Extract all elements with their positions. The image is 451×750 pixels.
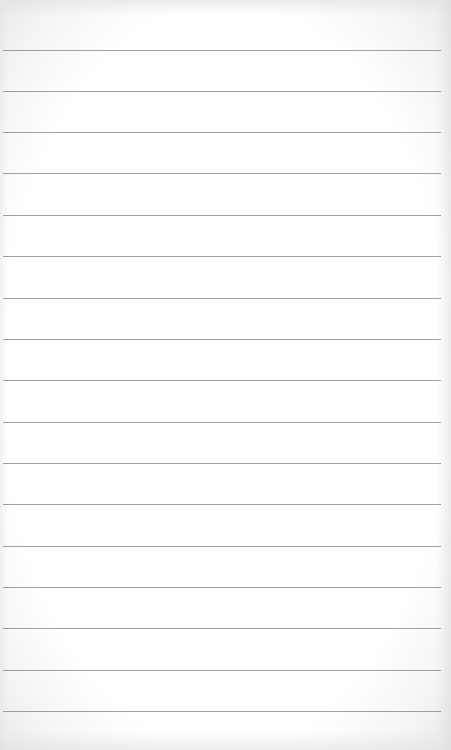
ruled-line <box>3 173 441 174</box>
ruled-line <box>3 50 441 51</box>
lined-paper <box>0 0 451 750</box>
paper-shadow-top <box>0 0 451 16</box>
ruled-line <box>3 91 441 92</box>
ruled-line <box>3 504 441 505</box>
paper-shadow-right <box>437 0 451 750</box>
ruled-line <box>3 132 441 133</box>
ruled-line <box>3 463 441 464</box>
paper-shadow-left <box>0 0 8 750</box>
ruled-line <box>3 380 441 381</box>
ruled-line <box>3 587 441 588</box>
ruled-line <box>3 422 441 423</box>
ruled-line <box>3 546 441 547</box>
ruled-line <box>3 256 441 257</box>
ruled-line <box>3 670 441 671</box>
ruled-line <box>3 339 441 340</box>
ruled-line <box>3 628 441 629</box>
ruled-line <box>3 298 441 299</box>
ruled-line <box>3 711 441 712</box>
ruled-line <box>3 215 441 216</box>
paper-shadow-bottom <box>0 732 451 750</box>
